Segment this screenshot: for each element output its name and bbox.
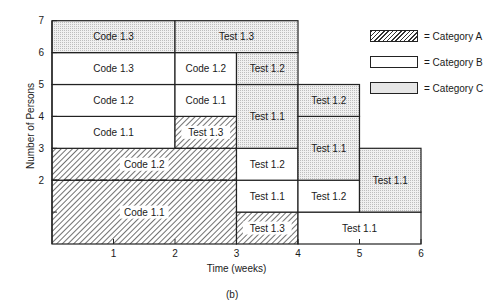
block-label: Test 1.2 [250, 63, 285, 74]
block-label: Test 1.3 [188, 127, 223, 138]
x-tick-label: 4 [295, 248, 301, 259]
block-label: Test 1.1 [373, 175, 408, 186]
block-label: Code 1.2 [124, 159, 165, 170]
x-tick-label: 5 [357, 248, 363, 259]
block-label: Test 1.1 [250, 111, 285, 122]
y-axis-label: Number of Persons [25, 83, 36, 169]
y-tick-label: 7 [38, 15, 44, 26]
y-tick-label: 3 [38, 143, 44, 154]
legend-label: = Category A [424, 31, 482, 42]
legend-item-category-a: = Category A [370, 30, 482, 42]
figure-caption: (b) [226, 289, 238, 300]
y-tick-label: 2 [38, 175, 44, 186]
x-tick-label: 2 [172, 248, 178, 259]
block-label: Test 1.2 [250, 159, 285, 170]
x-tick-label: 6 [418, 248, 424, 259]
block-label: Test 1.3 [219, 31, 254, 42]
legend-item-category-c: = Category C [370, 82, 483, 94]
y-tick-label: 6 [38, 47, 44, 58]
block-label: Code 1.3 [93, 31, 134, 42]
x-tick-label: 1 [111, 248, 117, 259]
y-tick-label: 5 [38, 79, 44, 90]
block-label: Code 1.1 [93, 127, 134, 138]
block-label: Code 1.1 [124, 207, 165, 218]
hatched-swatch-icon [370, 30, 418, 42]
legend-label: = Category C [424, 83, 483, 94]
block-label: Test 1.1 [311, 143, 346, 154]
legend-label: = Category B [424, 57, 483, 68]
dotted-swatch-icon [370, 82, 418, 94]
block-label: Test 1.2 [311, 95, 346, 106]
block-label: Test 1.3 [250, 223, 285, 234]
x-axis-label: Time (weeks) [207, 263, 267, 274]
block-label: Code 1.1 [185, 95, 226, 106]
block-label: Test 1.1 [342, 223, 377, 234]
block-label: Code 1.3 [93, 63, 134, 74]
white-swatch-icon [370, 56, 418, 68]
y-tick-label: 4 [38, 111, 44, 122]
legend-item-category-b: = Category B [370, 56, 483, 68]
x-tick-label: 3 [234, 248, 240, 259]
resource-loading-chart: 234567123456Time (weeks)Number of Person… [0, 0, 501, 307]
block-label: Code 1.2 [93, 95, 134, 106]
block-label: Test 1.2 [311, 191, 346, 202]
block-label: Test 1.1 [250, 191, 285, 202]
block-label: Code 1.2 [185, 63, 226, 74]
